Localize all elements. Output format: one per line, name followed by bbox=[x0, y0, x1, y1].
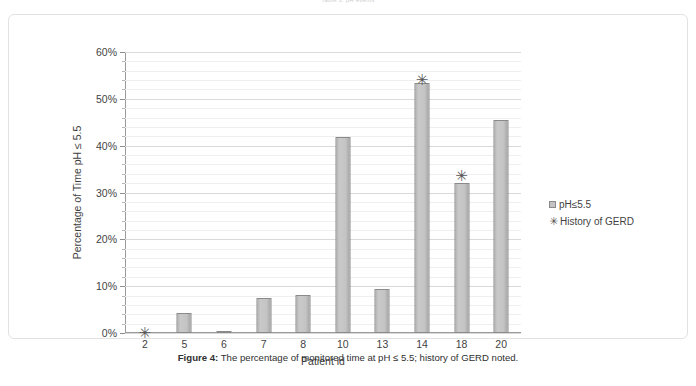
x-tick-label: 8 bbox=[300, 338, 306, 350]
y-tick-label: 50% bbox=[96, 93, 117, 105]
x-tick-label: 6 bbox=[221, 338, 227, 350]
x-tick-slot: 6 bbox=[204, 52, 244, 333]
y-tick-label: 40% bbox=[96, 140, 117, 152]
x-tick-label: 10 bbox=[337, 338, 349, 350]
x-tick-slot: 20 bbox=[481, 52, 521, 333]
x-tick-slot: 8 bbox=[283, 52, 323, 333]
x-tick-label: 2 bbox=[142, 338, 148, 350]
y-tick-label: 20% bbox=[96, 233, 117, 245]
figure-caption-label: Figure 4: bbox=[178, 352, 219, 363]
x-tick-slot: 5 bbox=[165, 52, 205, 333]
legend-item: pH≤5.5 bbox=[549, 196, 634, 213]
legend-item: ✳History of GERD bbox=[549, 213, 634, 230]
legend-item-label: History of GERD bbox=[560, 216, 634, 227]
page-running-text: Table 3: pH events bbox=[0, 0, 696, 5]
x-tick-slot: 14 bbox=[402, 52, 442, 333]
figure-frame: Percentage of Time pH ≤ 5.5 0%10%20%30%4… bbox=[8, 14, 688, 339]
x-tick-slot: 2 bbox=[125, 52, 165, 333]
x-tick-slot: 18 bbox=[442, 52, 482, 333]
legend-item-label: pH≤5.5 bbox=[559, 199, 591, 210]
x-tick-label: 5 bbox=[181, 338, 187, 350]
x-tick-slot: 13 bbox=[363, 52, 403, 333]
x-tick-label: 7 bbox=[261, 338, 267, 350]
chart-legend: pH≤5.5✳History of GERD bbox=[549, 196, 634, 230]
gridline-major bbox=[125, 333, 521, 334]
figure-caption-text: The percentage of monitored time at pH ≤… bbox=[218, 352, 518, 363]
x-tick-slot: 7 bbox=[244, 52, 284, 333]
y-tick-major bbox=[120, 333, 125, 334]
x-tick-label: 18 bbox=[456, 338, 468, 350]
y-tick-label: 0% bbox=[102, 327, 117, 339]
legend-asterisk-icon: ✳ bbox=[549, 216, 558, 227]
x-tick-label: 13 bbox=[377, 338, 389, 350]
x-tick-label: 20 bbox=[495, 338, 507, 350]
x-tick-slot: 10 bbox=[323, 52, 363, 333]
figure-caption: Figure 4: The percentage of monitored ti… bbox=[0, 352, 696, 363]
y-axis-title: Percentage of Time pH ≤ 5.5 bbox=[71, 52, 85, 333]
y-tick-label: 60% bbox=[96, 46, 117, 58]
legend-square-icon bbox=[549, 201, 556, 208]
plot-area: 0%10%20%30%40%50%60% ✳✳✳ 256781013141820 bbox=[125, 52, 521, 333]
x-tick-label: 14 bbox=[416, 338, 428, 350]
y-tick-label: 30% bbox=[96, 187, 117, 199]
y-tick-label: 10% bbox=[96, 280, 117, 292]
